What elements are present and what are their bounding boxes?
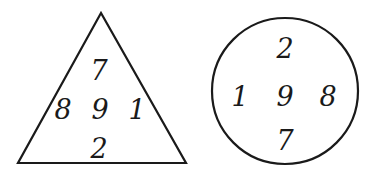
circle-right-number: 8 [319, 81, 336, 112]
circle-top-number: 2 [275, 33, 293, 64]
circle-figure: 2 1 9 8 7 [212, 18, 358, 164]
triangle-left-number: 8 [54, 94, 71, 125]
circle-left-number: 1 [231, 81, 248, 112]
triangle-bottom-number: 2 [89, 133, 107, 164]
triangle-top-number: 7 [90, 55, 108, 86]
triangle-right-number: 1 [128, 94, 145, 125]
diagram-canvas: 7 8 9 1 2 2 1 9 8 7 [0, 0, 378, 175]
circle-center-number: 9 [276, 81, 293, 112]
triangle-figure: 7 8 9 1 2 [18, 13, 186, 164]
triangle-center-number: 9 [91, 94, 108, 125]
circle-bottom-number: 7 [276, 125, 294, 156]
